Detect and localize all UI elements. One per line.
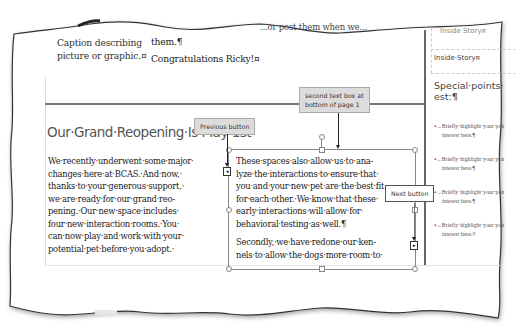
body-line: changes·here·at·BCAS.·And·now,· <box>48 168 208 181</box>
sidebar-bullet[interactable]: ▪→Briefly·highlight·your·point·of intere… <box>434 188 504 206</box>
body-line: thanks·to·your·generous·support,· <box>48 180 208 193</box>
sidebar-bullet[interactable]: ▪→Briefly·highlight·your·point·of intere… <box>434 221 504 239</box>
resize-handle-bottom[interactable] <box>319 266 325 272</box>
rotate-handle[interactable] <box>319 134 325 140</box>
text-box-line: lyze·the·interactions·to·ensure·that· <box>236 168 384 181</box>
callout-previous-button: Previous button <box>194 118 255 135</box>
sidebar-dotted-rule <box>431 49 515 50</box>
left-column-body[interactable]: We·recently·underwent·some·major· change… <box>48 155 208 255</box>
body-line: four·new·interaction·rooms.·You· <box>48 218 208 231</box>
text-box-line: nels·to·allow·the·dogs·more·room·to· <box>236 249 384 262</box>
text-box-line: for·each·other.·We·know·that·these· <box>236 193 384 206</box>
picture-caption[interactable]: Caption describing picture or graphic.¤ <box>57 36 147 62</box>
resize-handle-right[interactable] <box>412 207 418 213</box>
bullet-text: interest·here.¶ <box>434 197 504 206</box>
body-line: We·recently·underwent·some·major· <box>48 155 208 168</box>
arrow-down-icon <box>338 113 339 146</box>
callout-second-text-box: second text box at bottom of page 1 <box>299 87 370 113</box>
callout-line: bottom of page 1 <box>305 100 364 109</box>
sidebar-dotted-rule <box>431 73 515 74</box>
special-points-line-2: est:¶ <box>434 91 504 102</box>
body-line: we·are·ready·for·our·grand·reo- <box>48 193 208 206</box>
arrow-down-icon <box>414 203 415 238</box>
bullet-text: interest·here.¤ <box>434 230 504 239</box>
callout-next-button: Next button <box>385 185 434 202</box>
previous-link-button[interactable]: ◂ <box>223 167 231 176</box>
special-points-heading[interactable]: Special·points·of·inter- est:¶ <box>434 80 504 102</box>
text-box-content[interactable]: These·spaces·also·allow·us·to·ana- lyze·… <box>236 155 384 261</box>
callout-line: second text box at <box>305 91 364 100</box>
resize-handle-top[interactable] <box>319 147 325 153</box>
caption-line-1: Caption describing <box>57 36 147 49</box>
text-box-line: early·interactions·will·allow·for· <box>236 205 384 218</box>
sidebar-bullet[interactable]: ▪→Briefly·highlight·your·point·of intere… <box>434 122 504 140</box>
body-line: potential·pet·before·you·adopt.· <box>48 243 208 256</box>
text-box-line: you·and·your·new·pet·are·the·best·fit <box>236 180 384 193</box>
special-points-line-1: Special·points·of·inter- <box>434 80 504 91</box>
inside-story-label[interactable]: Inside·Story¤ <box>434 54 480 62</box>
resize-handle-bottom-left[interactable] <box>226 266 232 272</box>
body-line: pening.·Our·new·space·includes· <box>48 205 208 218</box>
text-box-line: Secondly,·we·have·redone·our·ken- <box>236 236 384 249</box>
caption-line-2: picture or graphic.¤ <box>57 49 147 62</box>
left-margin-line <box>45 77 46 267</box>
resize-handle-top-right[interactable] <box>412 147 418 153</box>
arrow-down-icon <box>227 134 228 164</box>
previous-paragraph-end: them.¶ <box>151 35 182 48</box>
text-box-line: behavioral·testing·as·well.¶ <box>236 218 384 231</box>
callout-label: Previous button <box>200 123 249 130</box>
triangle-right-icon: ▸ <box>413 243 416 248</box>
inside-story-top[interactable]: Inside Story¤ <box>440 27 486 35</box>
sidebar-bullet[interactable]: ▪→Briefly·highlight·your·point·of intere… <box>434 155 504 173</box>
bullet-text: ▪→Briefly·highlight·your·point·of <box>434 155 504 164</box>
text-box-line: These·spaces·also·allow·us·to·ana- <box>236 155 384 168</box>
bullet-text: interest·here.¶ <box>434 131 504 140</box>
sidebar-dotted-edge <box>431 28 433 73</box>
congratulations-text: Congratulations Ricky!¤ <box>151 53 260 64</box>
bullet-text: interest·here.¶ <box>434 164 504 173</box>
resize-handle-left[interactable] <box>226 207 232 213</box>
top-fragment-text: ...or post them when we... <box>260 22 367 32</box>
triangle-left-icon: ◂ <box>226 169 229 174</box>
rotate-handle-stem <box>321 139 322 148</box>
bullet-text: ▪→Briefly·highlight·your·point·of <box>434 188 504 197</box>
next-link-button[interactable]: ▸ <box>410 241 418 250</box>
body-line: can·now·play·and·work·with·your· <box>48 230 208 243</box>
bullet-text: ▪→Briefly·highlight·your·point·of <box>434 122 504 131</box>
callout-label: Next button <box>391 190 428 197</box>
bullet-text: ▪→Briefly·highlight·your·point·of <box>434 221 504 230</box>
resize-handle-bottom-right[interactable] <box>412 266 418 272</box>
document-page: ...or post them when we... Caption descr… <box>0 0 515 328</box>
